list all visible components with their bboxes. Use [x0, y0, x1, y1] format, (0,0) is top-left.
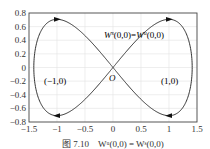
direction-arrow-icon [165, 113, 172, 118]
direction-arrow-icon [53, 113, 60, 118]
y-tick-label: −0.6 [10, 103, 27, 113]
x-tick-label: −1 [52, 124, 62, 134]
direction-arrow-icon [166, 17, 173, 22]
y-tick-label: 0.8 [15, 8, 27, 18]
y-tick-label: −0.8 [10, 117, 27, 127]
y-tick-label: −0.4 [10, 90, 27, 100]
y-tick-label: 0.2 [15, 49, 26, 59]
x-tick-label: 1.5 [191, 124, 203, 134]
y-tick-label: 0 [22, 63, 27, 73]
left-equilibrium-label: (−1,0) [44, 76, 66, 86]
chart: −1.5−1−0.500.511.50.80.60.40.20−0.2−0.4−… [0, 0, 210, 149]
y-tick-label: −0.2 [10, 76, 26, 86]
x-tick-label: 1 [167, 124, 172, 134]
x-tick-label: −0.5 [77, 124, 94, 134]
figure-caption: 图 7.10 Wᵘ(0,0) = Wˢ(0,0) [62, 137, 164, 149]
origin-label: O [109, 73, 116, 83]
y-tick-label: 0.6 [15, 22, 27, 32]
x-tick-label: 0.5 [135, 124, 147, 134]
manifold-label: Ws(0,0)=Wu(0,0) [104, 30, 164, 40]
x-tick-label: 0 [111, 124, 116, 134]
y-tick-label: 0.4 [15, 35, 27, 45]
right-equilibrium-label: (1,0) [161, 76, 178, 86]
direction-arrow-icon [54, 17, 61, 22]
